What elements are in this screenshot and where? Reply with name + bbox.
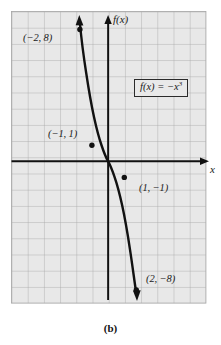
equation-base: f(x) = −x <box>140 81 179 92</box>
figure-graph-of-negative-x-cubed: f(x) x (−2, 8) (−1, 1) (1, −1) (2, −8) f… <box>0 0 221 345</box>
point-label-2-neg8: (2, −8) <box>146 274 175 285</box>
equation-exponent: 3 <box>179 80 183 88</box>
point-marker-neg1-1 <box>89 143 94 148</box>
point-marker-2-neg8 <box>134 287 139 292</box>
y-axis-label: f(x) <box>113 14 128 25</box>
point-marker-1-neg1 <box>122 175 127 180</box>
point-label-1-neg1: (1, −1) <box>139 183 168 194</box>
point-label-neg2-8: (−2, 8) <box>23 33 52 44</box>
equation-box: f(x) = −x3 <box>134 79 188 97</box>
point-marker-neg2-8 <box>77 27 82 32</box>
point-label-neg1-1: (−1, 1) <box>48 129 77 140</box>
x-axis-label: x <box>210 164 215 175</box>
figure-caption: (b) <box>0 323 221 334</box>
graph-canvas <box>0 0 221 345</box>
